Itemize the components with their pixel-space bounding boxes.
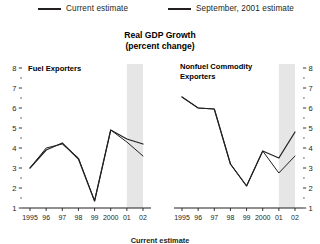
- chart-panel-nonfuel-commodity-exporters: 1234567819959697989920000102: [174, 64, 313, 221]
- y-axis-label: 1: [309, 204, 313, 213]
- y-axis-label: 7: [12, 84, 16, 93]
- chart-footnote: Current estimate: [0, 236, 320, 244]
- x-axis-label: 1995: [22, 214, 38, 221]
- forecast-shaded-region: [127, 64, 143, 208]
- y-axis-label: 4: [309, 144, 313, 153]
- y-axis-label: 3: [309, 164, 313, 173]
- y-axis-label: 5: [12, 124, 16, 133]
- x-axis-label: 96: [194, 214, 202, 221]
- data-series-line: [182, 97, 295, 186]
- x-axis-label: 99: [91, 214, 99, 221]
- x-axis-label: 01: [123, 214, 131, 221]
- data-series-line: [30, 130, 143, 201]
- y-axis-label: 8: [309, 64, 313, 73]
- data-series-line: [30, 130, 143, 201]
- y-axis-label: 4: [12, 144, 16, 153]
- y-axis-label: 3: [12, 164, 16, 173]
- y-axis-label: 8: [12, 64, 16, 73]
- y-axis-label: 6: [12, 104, 16, 113]
- y-axis-label: 7: [309, 84, 313, 93]
- x-axis-label: 96: [42, 214, 50, 221]
- y-axis-label: 5: [309, 124, 313, 133]
- y-axis-label: 6: [309, 104, 313, 113]
- x-axis-label: 02: [291, 214, 299, 221]
- x-axis-label: 98: [75, 214, 83, 221]
- chart-panel-fuel-exporters: 1234567819959697989920000102: [12, 64, 151, 221]
- chart-canvas: 1234567819959697989920000102123456781995…: [0, 0, 320, 244]
- x-axis-label: 97: [210, 214, 218, 221]
- x-axis-label: 98: [227, 214, 235, 221]
- x-axis-label: 99: [243, 214, 251, 221]
- x-axis-label: 2000: [255, 214, 271, 221]
- x-axis-label: 97: [58, 214, 66, 221]
- y-axis-label: 2: [12, 184, 16, 193]
- y-axis-label: 2: [309, 184, 313, 193]
- x-axis-label: 2000: [103, 214, 119, 221]
- x-axis-label: 1995: [174, 214, 190, 221]
- x-axis-label: 01: [275, 214, 283, 221]
- x-axis-label: 02: [139, 214, 147, 221]
- y-axis-label: 1: [12, 204, 16, 213]
